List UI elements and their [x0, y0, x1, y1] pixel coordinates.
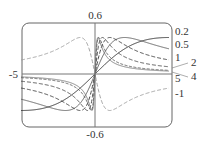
series-label-2: 2 — [191, 56, 197, 68]
x-left-label: -5 — [9, 68, 19, 80]
y-bottom-label: -0.6 — [86, 128, 104, 140]
series-label-4: 4 — [191, 70, 197, 82]
series-label-neg1: -1 — [175, 87, 184, 99]
series-label-0.5: 0.5 — [175, 38, 189, 50]
series-label-1: 1 — [175, 51, 181, 63]
leader-2 — [172, 63, 188, 68]
y-top-label: 0.6 — [88, 9, 102, 21]
series-label-0.2: 0.2 — [175, 25, 189, 37]
chart: 0.6 -0.6 -5 0.2 0.5 1 2 4 5 -1 — [0, 0, 205, 144]
